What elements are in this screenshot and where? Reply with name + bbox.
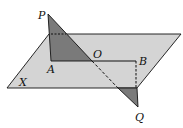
label-p: P [37, 9, 46, 22]
label-b: B [138, 55, 147, 68]
label-a: A [46, 63, 55, 76]
label-o: O [93, 48, 102, 61]
label-q: Q [135, 111, 144, 124]
triangle-lower-q [118, 88, 138, 107]
label-x: X [18, 76, 28, 89]
geometry-figure: P A O B X Q [0, 0, 183, 128]
